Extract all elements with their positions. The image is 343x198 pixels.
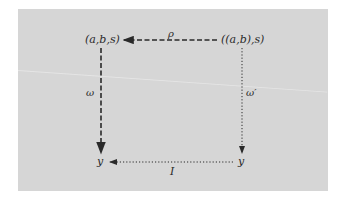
label-I: I bbox=[170, 166, 174, 178]
label-rho: ρ bbox=[168, 28, 174, 40]
node-bottom-right: y bbox=[238, 156, 244, 168]
label-omega-prime: ω′ bbox=[246, 87, 256, 99]
node-top-left: (a,b,s) bbox=[85, 34, 120, 46]
node-bottom-left: y bbox=[97, 156, 103, 168]
label-omega: ω bbox=[86, 87, 94, 99]
node-top-right: ((a,b),s) bbox=[221, 34, 264, 46]
